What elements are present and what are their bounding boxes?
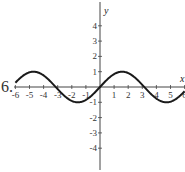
x-tick-label: 3	[140, 90, 145, 100]
y-tick-label: -4	[90, 143, 98, 153]
axes: yx	[14, 2, 185, 170]
y-axis-label: y	[103, 5, 109, 16]
y-tick-label: 1	[93, 67, 98, 77]
x-tick-label: -4	[40, 90, 48, 100]
y-tick-label: -2	[90, 113, 98, 123]
y-tick-label: 4	[93, 21, 98, 31]
x-tick-label: -6	[12, 90, 20, 100]
x-tick-label: 2	[126, 90, 131, 100]
y-tick-label: 2	[93, 51, 98, 61]
y-tick-label: -1	[90, 97, 98, 107]
sine-graph: yx -6-5-4-3-2-1123456-4-3-2-11234	[0, 0, 185, 172]
x-tick-label: 5	[168, 90, 173, 100]
y-tick-label: -3	[90, 128, 98, 138]
x-tick-label: 1	[112, 90, 117, 100]
x-axis-label: x	[179, 73, 185, 84]
x-tick-label: -5	[26, 90, 34, 100]
y-tick-label: 3	[93, 36, 98, 46]
